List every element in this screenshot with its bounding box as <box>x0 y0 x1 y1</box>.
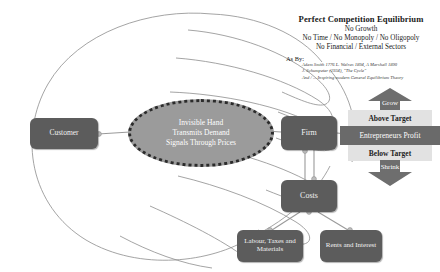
ellipse-line-3: Signals Through Prices <box>166 138 236 148</box>
node-rents-label: Rents and Interest <box>324 242 379 250</box>
ellipse-line-1: Invisible Hand <box>166 118 236 128</box>
node-costs[interactable]: Costs <box>281 180 337 212</box>
legend-as-by: As By: <box>282 55 440 62</box>
legend-line-3: No Financial / External Sectors <box>282 43 440 52</box>
legend-block: Perfect Competition Equilibrium No Growt… <box>282 14 440 81</box>
legend-citation-3: And / ... Inspiring modern General Equil… <box>282 75 440 82</box>
node-firm-label: Firm <box>299 129 319 138</box>
shrink-label: Shrink <box>360 163 420 171</box>
entrepreneurs-profit-band: Entrepreneurs Profit <box>340 126 440 145</box>
node-customer-label: Customer <box>47 129 80 137</box>
ellipse-line-2: Transmits Demand <box>166 128 236 138</box>
invisible-hand-ellipse: Invisible Hand Transmits Demand Signals … <box>128 99 274 167</box>
below-target-label: Below Target <box>369 149 411 158</box>
grow-label: Grow <box>360 99 420 107</box>
node-costs-label: Costs <box>298 192 320 201</box>
diagram-canvas: Invisible Hand Transmits Demand Signals … <box>0 0 440 272</box>
legend-line-2: No Time / No Monopoly / No Oligopoly <box>282 34 440 43</box>
node-rents-interest[interactable]: Rents and Interest <box>320 230 382 262</box>
legend-heading: Perfect Competition Equilibrium <box>282 14 440 24</box>
node-firm[interactable]: Firm <box>281 116 337 150</box>
node-labour-label: Labour, Taxes and Materials <box>237 238 303 253</box>
node-labour-taxes-materials[interactable]: Labour, Taxes and Materials <box>237 230 303 262</box>
legend-line-1: No Growth <box>282 25 440 34</box>
above-target-label: Above Target <box>368 114 411 123</box>
above-target-band: Above Target <box>348 110 432 126</box>
node-customer[interactable]: Customer <box>30 118 98 149</box>
below-target-band: Below Target <box>348 145 432 161</box>
grow-arrow: Grow <box>360 88 420 112</box>
shrink-arrow: Shrink <box>360 160 420 186</box>
entrepreneurs-profit-label: Entrepreneurs Profit <box>359 131 420 140</box>
